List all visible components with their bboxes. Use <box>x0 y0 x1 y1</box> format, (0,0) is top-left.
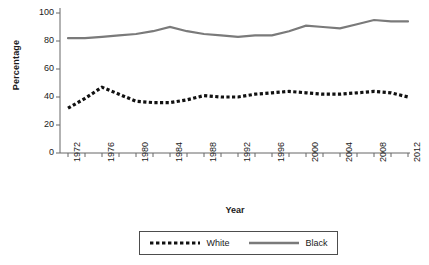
y-tick-label: 80 <box>28 36 54 45</box>
x-axis-tick-labels: 1972197619801984198819921996200020042008… <box>60 160 410 206</box>
x-axis-title: Year <box>60 205 410 215</box>
x-axis-ticks <box>68 153 408 157</box>
x-tick-label: 1976 <box>106 142 116 162</box>
legend-entry-black: Black <box>248 238 327 248</box>
legend-entry-white: White <box>149 238 229 248</box>
chart-svg <box>60 8 410 158</box>
x-tick-label: 1984 <box>174 142 184 162</box>
y-tick-label: 0 <box>28 148 54 157</box>
x-tick-label: 1980 <box>140 142 150 162</box>
x-tick-label: 2008 <box>378 142 388 162</box>
plot-area <box>60 8 410 158</box>
y-axis-ticks <box>56 13 60 153</box>
legend-label-black: Black <box>305 238 327 248</box>
axes-group <box>56 8 410 157</box>
x-tick-label: 1972 <box>72 142 82 162</box>
legend-label-white: White <box>206 238 229 248</box>
y-tick-label: 20 <box>28 120 54 129</box>
y-tick-label: 60 <box>28 64 54 73</box>
dotted-line-swatch <box>149 240 201 246</box>
x-tick-label: 1992 <box>242 142 252 162</box>
chart-legend: White Black <box>139 231 338 255</box>
y-axis-title: Percentage <box>11 25 21 105</box>
data-series-group <box>68 20 408 108</box>
y-tick-label: 100 <box>28 8 54 17</box>
x-tick-label: 2000 <box>310 142 320 162</box>
series-line-white <box>68 87 408 108</box>
y-tick-label: 40 <box>28 92 54 101</box>
x-tick-label: 2012 <box>412 142 422 162</box>
x-tick-label: 2004 <box>344 142 354 162</box>
chart-figure: Percentage 020406080100 1972197619801984… <box>0 0 429 265</box>
series-line-black <box>68 20 408 38</box>
solid-line-swatch <box>248 240 300 246</box>
x-tick-label: 1988 <box>208 142 218 162</box>
x-tick-label: 1996 <box>276 142 286 162</box>
y-axis-tick-labels: 020406080100 <box>26 0 54 170</box>
